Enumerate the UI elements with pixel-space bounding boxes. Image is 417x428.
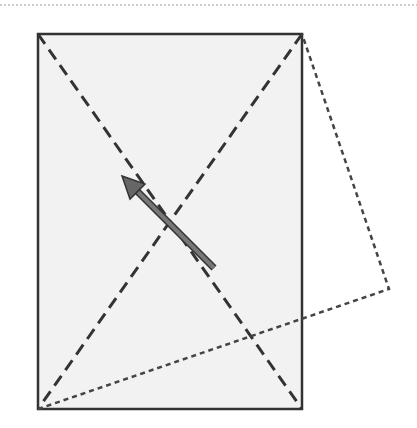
diagram-canvas (0, 0, 417, 428)
